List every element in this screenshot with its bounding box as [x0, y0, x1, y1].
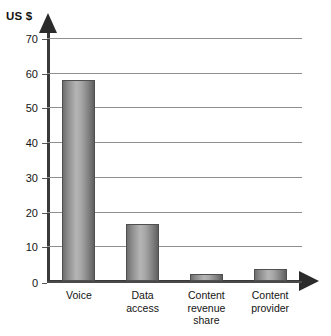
- plot-area: 706050403020100: [47, 38, 302, 281]
- y-axis-tick: [42, 213, 47, 214]
- y-axis-tick-label: 50: [26, 102, 38, 114]
- bar: [190, 274, 223, 281]
- y-axis-tick: [42, 247, 47, 248]
- gridline: 60: [47, 73, 302, 74]
- y-axis-tick-label: 0: [32, 277, 38, 289]
- x-axis-category-label: Voice: [47, 289, 111, 302]
- y-axis-tick-label: 30: [26, 172, 38, 184]
- y-axis-tick-label: 70: [26, 33, 38, 45]
- arrow-right-icon: [299, 271, 319, 291]
- y-axis-tick: [42, 143, 47, 144]
- x-axis-category-label: Contentprovider: [238, 289, 302, 314]
- bar: [254, 269, 287, 281]
- y-axis-title: US $: [6, 10, 32, 22]
- y-axis-tick: [42, 108, 47, 109]
- y-axis-tick: [42, 283, 47, 284]
- y-axis-tick-label: 40: [26, 137, 38, 149]
- x-axis-category-label: Dataaccess: [111, 289, 175, 314]
- gridline: 70: [47, 38, 302, 39]
- gridline: 0: [47, 281, 302, 283]
- y-axis-tick: [42, 74, 47, 75]
- bar: [126, 224, 159, 281]
- x-axis-category-label: Contentrevenueshare: [175, 289, 239, 327]
- bar: [62, 80, 95, 281]
- y-axis-tick-label: 10: [26, 241, 38, 253]
- bar-chart: US $ 706050403020100 VoiceDataaccessCont…: [0, 0, 331, 336]
- y-axis-tick-label: 60: [26, 68, 38, 80]
- y-axis-tick-label: 20: [26, 207, 38, 219]
- arrow-up-icon: [39, 13, 57, 33]
- y-axis-tick: [42, 39, 47, 40]
- y-axis-tick: [42, 178, 47, 179]
